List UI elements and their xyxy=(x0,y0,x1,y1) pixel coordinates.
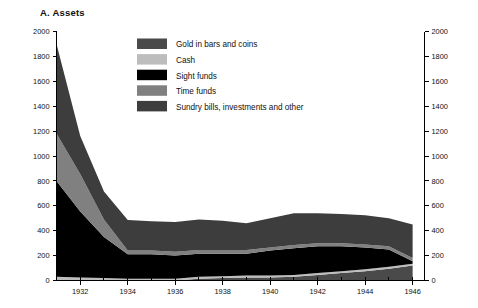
area-series-4 xyxy=(57,44,413,258)
y-axis-right-tick-label: 1400 xyxy=(432,102,448,111)
y-axis-tick-label: 2000 xyxy=(33,27,49,36)
x-axis-tick-label: 1942 xyxy=(309,287,325,296)
y-axis-right-tick-label: 1600 xyxy=(432,77,448,86)
legend-label-3: Time funds xyxy=(176,87,216,96)
y-axis-right-tick-label: 600 xyxy=(432,201,444,210)
y-axis-tick-label: 800 xyxy=(37,177,49,186)
y-axis-tick-label: 1200 xyxy=(33,127,49,136)
y-axis-tick-label: 1800 xyxy=(33,52,49,61)
legend-swatch-2 xyxy=(137,70,167,81)
y-axis-tick-label: 600 xyxy=(37,201,49,210)
x-axis-tick-label: 1940 xyxy=(262,287,278,296)
x-axis-tick-label: 1932 xyxy=(72,287,88,296)
legend-label-4: Sundry bills, investments and other xyxy=(176,103,304,112)
x-axis-tick-label: 1946 xyxy=(404,287,420,296)
y-axis-right-tick-label: 1000 xyxy=(432,152,448,161)
y-axis-right-tick-label: 800 xyxy=(432,177,444,186)
y-axis-right-tick-label: 400 xyxy=(432,226,444,235)
y-axis-tick-label: 1400 xyxy=(33,102,49,111)
legend-swatch-4 xyxy=(137,101,167,112)
y-axis-right-tick-label: 2000 xyxy=(432,27,448,36)
y-axis-right-tick-label: 0 xyxy=(432,276,436,285)
legend-swatch-0 xyxy=(137,39,167,50)
x-axis-tick-label: 1944 xyxy=(357,287,373,296)
x-axis-tick-label: 1936 xyxy=(167,287,183,296)
legend-label-2: Sight funds xyxy=(176,72,217,81)
y-axis-tick-label: 200 xyxy=(37,251,49,260)
y-axis-tick-label: 400 xyxy=(37,226,49,235)
y-axis-tick-label: 1600 xyxy=(33,77,49,86)
x-axis-tick-label: 1934 xyxy=(119,287,135,296)
legend-swatch-1 xyxy=(137,54,167,65)
stacked-area-chart: 0200400600800100012001400160018002000 02… xyxy=(0,0,478,308)
x-axis-tick-label: 1938 xyxy=(214,287,230,296)
chart-legend: Gold in bars and coinsCashSight fundsTim… xyxy=(137,39,304,112)
assets-chart-figure: A. Assets 020040060080010001200140016001… xyxy=(0,0,478,308)
y-axis-tick-label: 0 xyxy=(45,276,49,285)
area-layers xyxy=(57,44,413,281)
legend-label-0: Gold in bars and coins xyxy=(176,40,257,49)
legend-label-1: Cash xyxy=(176,56,196,65)
y-axis-right-tick-label: 1800 xyxy=(432,52,448,61)
y-axis-right-ticks: 0200400600800100012001400160018002000 xyxy=(425,27,448,285)
y-axis-left-ticks: 0200400600800100012001400160018002000 xyxy=(33,27,56,285)
y-axis-right-tick-label: 1200 xyxy=(432,127,448,136)
y-axis-tick-label: 1000 xyxy=(33,152,49,161)
y-axis-right-tick-label: 200 xyxy=(432,251,444,260)
legend-swatch-3 xyxy=(137,85,167,96)
